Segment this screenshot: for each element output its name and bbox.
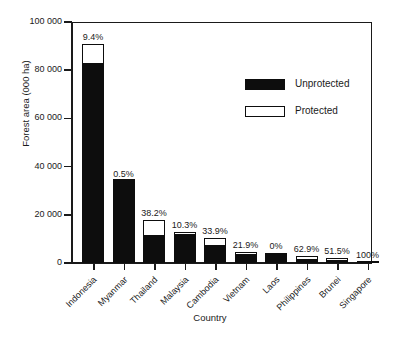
y-axis-tick [64, 214, 72, 216]
bar-segment-unprotected[interactable] [204, 246, 226, 263]
bar-segment-protected[interactable] [82, 44, 104, 65]
y-axis-tick-label: 20 000 [4, 210, 62, 219]
y-axis-tick [64, 118, 72, 120]
x-axis-tick [93, 263, 95, 270]
bar-segment-unprotected[interactable] [143, 236, 165, 263]
bar-segment-unprotected[interactable] [82, 64, 104, 263]
bar-group[interactable]: 10.3% [174, 232, 196, 263]
bar-percent-label: 10.3% [172, 221, 198, 230]
bar-percent-label: 100% [356, 251, 379, 260]
clipped-caption-strip [0, 339, 420, 348]
bar-group[interactable]: 62.9% [296, 256, 318, 263]
bar-segment-protected[interactable] [296, 256, 318, 261]
bar-segment-unprotected[interactable] [113, 181, 135, 263]
x-axis-tick [215, 263, 217, 270]
bar-percent-label: 0.5% [113, 170, 134, 179]
y-axis-tick-label: 80 000 [4, 65, 62, 74]
y-axis-tick [64, 262, 72, 264]
legend-swatch-protected [245, 106, 285, 117]
bar-segment-unprotected[interactable] [174, 235, 196, 263]
y-axis-tick-label: 40 000 [4, 162, 62, 171]
y-axis-title: Forest area (000 ha) [20, 24, 31, 184]
bar-segment-protected[interactable] [235, 252, 257, 254]
bar-segment-unprotected[interactable] [235, 255, 257, 263]
bar-percent-label: 62.9% [294, 245, 320, 254]
bar-group[interactable]: 21.9% [235, 252, 257, 263]
y-axis-tick [64, 166, 72, 168]
bar-percent-label: 33.9% [202, 227, 228, 236]
bar-segment-protected[interactable] [204, 238, 226, 247]
bar-segment-protected[interactable] [143, 220, 165, 237]
x-axis-tick [185, 263, 187, 270]
y-axis-tick [64, 21, 72, 23]
bar-group[interactable]: 33.9% [204, 238, 226, 263]
bar-segment-protected[interactable] [326, 258, 348, 260]
y-axis-tick-label: 0 [4, 258, 62, 267]
x-axis-tick [368, 263, 370, 270]
y-axis-tick-label: 60 000 [4, 113, 62, 122]
bar-series-container: 9.4%0.5%38.2%10.3%33.9%21.9%0%62.9%51.5%… [72, 22, 371, 263]
bar-percent-label: 21.9% [233, 241, 259, 250]
bar-percent-label: 38.2% [141, 209, 167, 218]
x-axis-tick [124, 263, 126, 270]
bar-group[interactable]: 9.4% [82, 44, 104, 263]
x-axis-tick [246, 263, 248, 270]
forest-area-chart-figure: 020 00040 00060 00080 000100 000 Forest … [0, 0, 420, 348]
legend-label: Protected [295, 105, 338, 117]
y-axis-tick-label: 100 000 [4, 17, 62, 26]
x-axis-title: Country [0, 312, 420, 323]
x-axis-tick [337, 263, 339, 270]
x-axis-tick [307, 263, 309, 270]
bar-group[interactable]: 0.5% [113, 181, 135, 263]
legend-swatch-unprotected [245, 79, 285, 90]
bar-percent-label: 0% [269, 242, 282, 251]
legend-label: Unprotected [295, 78, 349, 90]
bar-segment-protected[interactable] [113, 179, 135, 181]
bar-group[interactable]: 38.2% [143, 220, 165, 263]
bar-segment-protected[interactable] [174, 232, 196, 235]
bar-percent-label: 9.4% [83, 33, 104, 42]
bar-segment-unprotected[interactable] [265, 253, 287, 263]
x-axis-tick [154, 263, 156, 270]
bar-percent-label: 51.5% [324, 247, 350, 256]
bar-group[interactable]: 0% [265, 253, 287, 263]
x-axis-tick [276, 263, 278, 270]
y-axis-tick [64, 69, 72, 71]
